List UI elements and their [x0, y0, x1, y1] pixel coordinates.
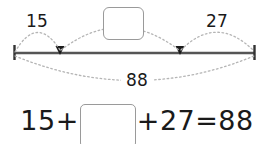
equation-equals-sign: =: [195, 104, 218, 138]
total-label: 88: [121, 70, 153, 90]
total-label-wrapper: 88: [0, 72, 274, 89]
arc-left-segment: [15, 32, 60, 52]
left-segment-label: 15: [26, 13, 48, 30]
equation-third-term: 27: [160, 104, 195, 138]
bar-model-worksheet: 15 27 88 15 + + 27 = 88: [0, 0, 274, 144]
equation-plus-sign-2: +: [137, 104, 160, 138]
right-segment-label: 27: [206, 13, 228, 30]
equation-row: 15 + + 27 = 88: [0, 104, 274, 144]
diagram-blank-answer-box[interactable]: [103, 7, 144, 40]
equation-result: 88: [218, 104, 253, 138]
equation-plus-sign-1: +: [56, 104, 79, 138]
arc-right-segment: [181, 32, 254, 51]
equation-first-term: 15: [20, 104, 55, 138]
equation-blank-answer-box[interactable]: [80, 104, 136, 144]
